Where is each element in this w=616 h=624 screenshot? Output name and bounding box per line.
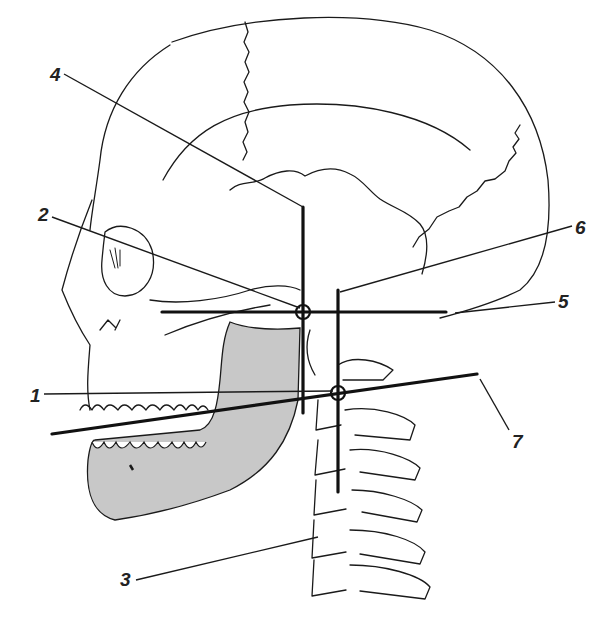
leader-7 [480,379,509,430]
label-4: 4 [50,65,61,84]
lower-teeth [92,442,206,448]
cranium-outline [172,18,549,319]
nasal-aperture [100,320,120,330]
vertebral-bodies [312,400,346,596]
leader-6 [340,226,572,292]
label-3: 3 [120,570,131,589]
skull-diagram: 1 2 3 4 5 6 7 [0,0,616,624]
orbit-detail [110,248,120,268]
leader-4 [64,74,303,207]
atlas [338,360,393,380]
coronal-suture [243,22,249,160]
label-2: 2 [38,205,49,224]
frontal-outline [90,45,170,230]
label-5: 5 [558,292,569,311]
orbit [102,226,154,296]
squamosal-suture [230,169,427,274]
label-6: 6 [575,218,586,237]
mastoid [307,330,315,375]
label-7: 7 [512,432,523,451]
leader-5 [455,302,555,313]
lambdoid-suture [413,125,520,247]
nasal-outline [62,200,92,410]
leader-3 [136,537,318,580]
temporal-line [163,104,470,180]
label-1: 1 [30,386,41,405]
spinous-processes [345,409,430,599]
skull-drawing [0,0,616,624]
upper-teeth [80,405,208,410]
mandible [87,322,300,520]
leader-2 [52,217,300,308]
